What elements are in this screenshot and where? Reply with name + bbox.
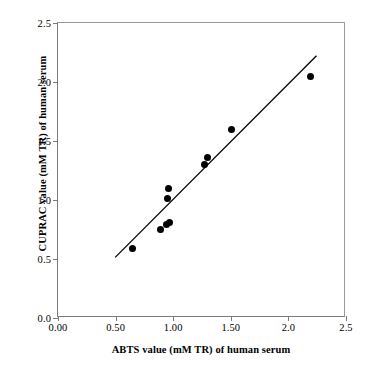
x-tick-label-3: 1.50	[221, 322, 240, 333]
x-tick-label-4: 2.0	[282, 322, 295, 333]
x-tick-label-2: 1.00	[164, 322, 183, 333]
x-tick-0	[58, 316, 59, 321]
data-point	[164, 195, 171, 202]
y-axis-title: CUPRAC value (mM TR) of human serum	[37, 44, 48, 264]
data-point	[129, 245, 136, 252]
scatter-plot-figure: 0.0 0.5 1.0 1.5 2.0 2.5 0.00 0.50 1.00 1…	[0, 0, 366, 365]
x-tick-label-1: 0.50	[106, 322, 125, 333]
data-point	[166, 219, 173, 226]
x-axis-title: ABTS value (mM TR) of human serum	[57, 344, 345, 355]
x-tick-4	[288, 316, 289, 321]
data-point	[165, 185, 172, 192]
x-tick-1	[116, 316, 117, 321]
x-tick-label-5: 2.5	[339, 322, 352, 333]
data-point	[307, 73, 314, 80]
x-tick-3	[231, 316, 232, 321]
x-tick-5	[346, 316, 347, 321]
y-tick-label-5: 2.5	[38, 18, 51, 29]
data-points-layer	[58, 23, 344, 316]
plot-area: 0.0 0.5 1.0 1.5 2.0 2.5 0.00 0.50 1.00 1…	[57, 22, 345, 317]
x-tick-label-0: 0.00	[49, 322, 68, 333]
x-tick-2	[173, 316, 174, 321]
y-axis-title-wrap: CUPRAC value (mM TR) of human serum	[18, 0, 19, 1]
data-point	[201, 161, 208, 168]
data-point	[157, 226, 164, 233]
data-point	[228, 126, 235, 133]
data-point	[204, 154, 211, 161]
